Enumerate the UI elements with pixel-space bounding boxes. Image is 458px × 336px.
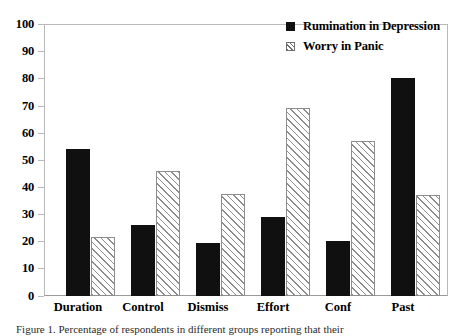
bar-chart-figure: 100 90 80 70 60 50 40 30 20 10 0 xyxy=(0,0,458,336)
bar-rumination-past xyxy=(391,78,415,295)
bar-worry-dismiss xyxy=(221,194,245,296)
x-axis: Duration Control Dismiss Effort Conf Pas… xyxy=(44,299,448,319)
y-axis-tick-label: 60 xyxy=(22,126,34,140)
y-tickmark xyxy=(38,296,44,297)
chart-legend: Rumination in Depression Worry in Panic xyxy=(286,18,456,58)
y-axis-tick-label: 100 xyxy=(16,17,34,31)
y-axis-tick-label: 30 xyxy=(22,207,34,221)
legend-item-rumination: Rumination in Depression xyxy=(286,18,456,35)
x-axis-label-past: Past xyxy=(358,299,448,316)
bar-worry-control xyxy=(156,171,180,296)
legend-label-worry: Worry in Panic xyxy=(303,39,384,54)
bar-rumination-dismiss xyxy=(196,243,220,296)
legend-label-rumination: Rumination in Depression xyxy=(303,19,440,34)
bar-worry-conf xyxy=(351,141,375,296)
bar-worry-past xyxy=(416,195,440,295)
solid-square-icon xyxy=(286,22,295,31)
bar-rumination-duration xyxy=(66,149,90,296)
figure-caption: Figure 1. Percentage of respondents in d… xyxy=(16,322,448,336)
y-axis-tick-label: 90 xyxy=(22,44,34,58)
bar-rumination-control xyxy=(131,225,155,296)
plot-area xyxy=(44,24,448,296)
y-axis-tick-label: 20 xyxy=(22,234,34,248)
y-axis-tick-label: 80 xyxy=(22,71,34,85)
y-axis-tick-label: 10 xyxy=(22,261,34,275)
y-axis-tick-label: 40 xyxy=(22,180,34,194)
y-axis-tick-label: 70 xyxy=(22,99,34,113)
legend-item-worry: Worry in Panic xyxy=(286,38,456,55)
bar-worry-effort xyxy=(286,108,310,295)
y-axis: 100 90 80 70 60 50 40 30 20 10 0 xyxy=(0,0,44,336)
y-axis-tick-label: 50 xyxy=(22,153,34,167)
bar-worry-duration xyxy=(91,237,115,295)
hatched-square-icon xyxy=(286,42,295,51)
bar-rumination-conf xyxy=(326,241,350,295)
bar-rumination-effort xyxy=(261,217,285,296)
